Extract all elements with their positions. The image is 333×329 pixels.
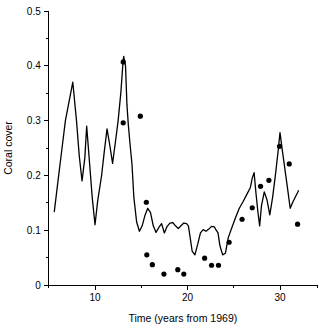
series-points-observations xyxy=(121,59,301,276)
data-point xyxy=(144,252,149,257)
data-point xyxy=(121,59,126,64)
y-tick-label: 0 xyxy=(35,280,41,291)
data-point xyxy=(161,271,166,276)
data-point xyxy=(239,217,244,222)
data-point xyxy=(287,161,292,166)
x-tick-label: 20 xyxy=(182,292,194,303)
data-point xyxy=(209,263,214,268)
data-point xyxy=(144,200,149,205)
y-axis-title: Coral cover xyxy=(2,121,14,175)
data-point xyxy=(138,114,143,119)
y-tick-label: 0.3 xyxy=(27,115,41,126)
data-point xyxy=(121,120,126,125)
data-point xyxy=(181,271,186,276)
y-tick-label: 0.1 xyxy=(27,225,41,236)
coral-cover-chart: 00.10.20.30.40.5102030Time (years from 1… xyxy=(0,0,333,329)
chart-plot-area: 00.10.20.30.40.5102030Time (years from 1… xyxy=(0,0,333,329)
data-point xyxy=(216,263,221,268)
data-point xyxy=(202,256,207,261)
data-point xyxy=(175,267,180,272)
y-tick-label: 0.2 xyxy=(27,170,41,181)
data-point xyxy=(250,205,255,210)
data-point xyxy=(150,262,155,267)
y-tick-label: 0.5 xyxy=(27,6,41,17)
series-line-model-line xyxy=(54,56,298,254)
data-point xyxy=(295,222,300,227)
data-point xyxy=(258,184,263,189)
data-point xyxy=(277,144,282,149)
x-tick-label: 30 xyxy=(274,292,286,303)
data-point xyxy=(227,240,232,245)
x-axis-title: Time (years from 1969) xyxy=(129,312,238,324)
y-tick-label: 0.4 xyxy=(27,60,41,71)
data-point xyxy=(266,178,271,183)
x-tick-label: 10 xyxy=(89,292,101,303)
